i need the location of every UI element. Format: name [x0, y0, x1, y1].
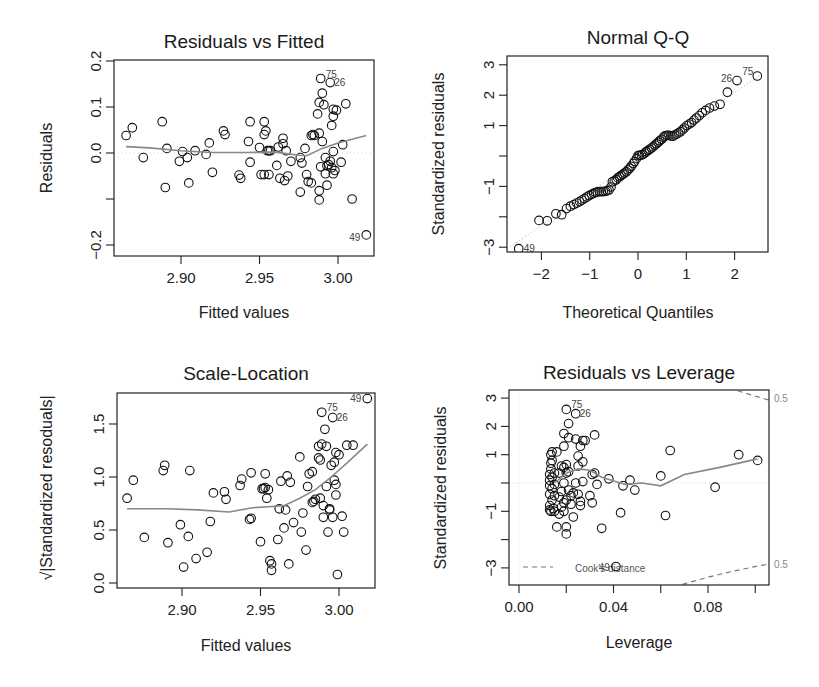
data-point — [185, 179, 194, 188]
diagnostic-plots-figure: Residuals vs Fitted Fitted values Residu… — [0, 0, 819, 687]
x-tick-label: 0 — [634, 265, 642, 282]
y-tick-label: 0.2 — [87, 51, 104, 72]
panel-scale-location: Scale-Location Fitted values √|Standardi… — [38, 363, 375, 654]
x-tick-label: 3.00 — [324, 601, 353, 618]
y-tick-label: −3 — [482, 559, 499, 576]
data-point — [723, 88, 732, 97]
y-axis-label: √|Standardized resoduals| — [38, 395, 55, 580]
plot-area: 7526492.902.953.000.00.51.01.5 — [90, 393, 375, 618]
x-tick-label: 2.90 — [166, 269, 195, 286]
data-point — [303, 482, 312, 491]
data-point — [323, 181, 332, 190]
data-point — [129, 476, 138, 485]
data-point — [128, 123, 137, 132]
data-point — [139, 153, 148, 162]
data-point — [342, 100, 351, 109]
data-point — [562, 405, 571, 414]
data-point — [328, 513, 337, 522]
data-point — [244, 137, 253, 146]
panel-title: Normal Q-Q — [587, 27, 689, 48]
data-point — [206, 517, 215, 526]
x-tick-label: −2 — [533, 265, 550, 282]
data-point — [159, 466, 168, 475]
data-point — [274, 535, 283, 544]
data-point — [666, 446, 675, 455]
plot-area: 7526492.902.953.000.20.10.0−0.2 — [87, 51, 374, 286]
data-point — [574, 452, 583, 461]
cooks-level-upper: 0.5 — [774, 393, 788, 404]
data-point — [315, 186, 324, 195]
data-point — [246, 117, 255, 126]
data-point — [158, 117, 167, 126]
data-point — [315, 196, 324, 205]
data-point — [316, 456, 325, 465]
y-tick-label: 1.0 — [90, 467, 107, 488]
panel-title: Residuals vs Fitted — [164, 31, 325, 52]
data-point — [543, 217, 552, 226]
data-point — [329, 147, 338, 156]
data-point — [236, 481, 245, 490]
y-axis-label: Residuals — [38, 123, 55, 193]
data-point — [319, 513, 328, 522]
data-point — [285, 560, 294, 569]
data-point — [287, 157, 296, 166]
data-point — [273, 161, 282, 170]
data-point — [597, 524, 606, 533]
data-point — [160, 461, 169, 470]
plot-content — [508, 69, 769, 253]
plot-area: 267549−2−1012321−1−3 — [480, 56, 768, 282]
data-point — [313, 110, 322, 119]
data-point — [560, 442, 569, 451]
y-tick-label: 1 — [482, 451, 499, 459]
x-tick-label: 3.00 — [323, 269, 352, 286]
x-tick-label: 0.04 — [599, 598, 628, 615]
data-point — [209, 489, 218, 498]
y-tick-label: 1.5 — [90, 414, 107, 435]
data-point — [332, 491, 341, 500]
data-point — [299, 509, 308, 518]
point-label: 26 — [334, 77, 346, 88]
y-tick-label: 3 — [482, 394, 499, 402]
data-point — [161, 183, 170, 192]
data-point — [260, 117, 269, 126]
y-axis-label: Standardized residuals — [430, 73, 447, 236]
y-tick-label: 1 — [480, 121, 497, 129]
x-tick-label: 2.95 — [246, 601, 275, 618]
y-tick-label: −0.2 — [87, 230, 104, 260]
data-point — [734, 450, 743, 459]
data-point — [557, 210, 566, 219]
data-point — [296, 188, 305, 197]
data-point — [289, 518, 298, 527]
data-point — [236, 174, 245, 183]
y-tick-label: 0.0 — [90, 573, 107, 594]
plot-frame — [114, 60, 374, 256]
data-point — [305, 470, 314, 479]
y-tick-label: 3 — [480, 61, 497, 69]
data-point — [237, 475, 246, 484]
data-point — [302, 546, 311, 555]
point-label: 26 — [337, 412, 349, 423]
data-point — [192, 554, 201, 563]
y-tick-label: 0.0 — [87, 143, 104, 164]
x-tick-label: 0.00 — [504, 598, 533, 615]
data-point — [247, 469, 256, 478]
y-tick-label: 0.5 — [90, 520, 107, 541]
data-point — [593, 480, 602, 489]
plot-content — [509, 388, 769, 587]
data-point — [315, 129, 324, 138]
data-point — [348, 195, 357, 204]
data-point — [753, 72, 762, 81]
point-label: 49 — [349, 232, 361, 243]
data-point — [184, 532, 193, 541]
y-tick-label: −1 — [480, 178, 497, 195]
data-point — [338, 512, 347, 521]
y-tick-label: 2 — [480, 91, 497, 99]
panel-normal-qq: Normal Q-Q Theoretical Quantiles Standar… — [430, 27, 768, 321]
data-point — [203, 548, 212, 557]
data-point — [564, 419, 573, 428]
x-tick-label: 2.95 — [245, 269, 274, 286]
data-point — [657, 472, 666, 481]
x-axis-label: Fitted values — [201, 637, 292, 654]
data-point — [576, 442, 585, 451]
data-point — [616, 508, 625, 517]
